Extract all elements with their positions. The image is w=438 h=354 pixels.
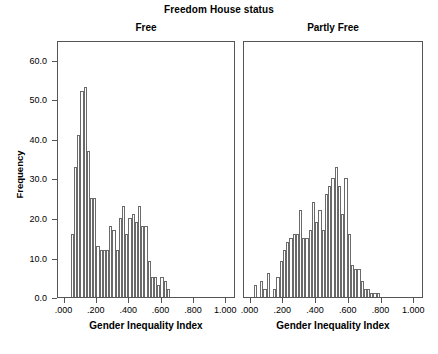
y-tick-label: 20.0 (29, 214, 47, 224)
plot-area-partly-free (243, 41, 423, 298)
y-tick-label: 10.0 (29, 254, 47, 264)
x-tick-mark (348, 298, 349, 303)
x-tick-label: .400 (119, 305, 137, 315)
histogram-bar (377, 293, 380, 297)
x-tick-label: .600 (152, 305, 170, 315)
x-axis-partly-free: Gender Inequality Index .000.200.400.600… (243, 298, 423, 332)
x-tick-mark (381, 298, 382, 303)
histogram-bar (267, 273, 270, 297)
x-tick-mark (128, 298, 129, 303)
histogram-figure: Freedom House status Free Partly Free Fr… (0, 0, 438, 354)
x-axis-title-partly-free: Gender Inequality Index (243, 320, 423, 331)
x-tick-label: .800 (372, 305, 390, 315)
x-tick-label: .200 (87, 305, 105, 315)
x-tick-mark (315, 298, 316, 303)
x-tick-label: .000 (241, 305, 259, 315)
x-tick-mark (413, 298, 414, 303)
panel-title-partly-free: Partly Free (243, 22, 423, 33)
y-tick-label: 60.0 (29, 56, 47, 66)
x-tick-label: .000 (55, 305, 73, 315)
y-axis-title: Frequency (14, 130, 25, 220)
page-title: Freedom House status (0, 4, 438, 15)
x-tick-label: 1.000 (214, 305, 237, 315)
x-tick-mark (96, 298, 97, 303)
x-tick-label: .400 (306, 305, 324, 315)
x-tick-mark (250, 298, 251, 303)
x-tick-mark (225, 298, 226, 303)
x-axis-free: Gender Inequality Index .000.200.400.600… (57, 298, 235, 332)
x-tick-mark (64, 298, 65, 303)
y-tick-label: 50.0 (29, 95, 47, 105)
x-tick-label: 1.000 (402, 305, 425, 315)
histogram-bars-partly-free (244, 42, 422, 297)
x-tick-label: .600 (339, 305, 357, 315)
x-tick-mark (282, 298, 283, 303)
plot-area-free (57, 41, 235, 298)
x-tick-mark (193, 298, 194, 303)
y-axis: Frequency 0.010.020.030.040.050.060.0 (0, 41, 57, 299)
x-tick-label: .200 (274, 305, 292, 315)
y-tick-label: 40.0 (29, 135, 47, 145)
histogram-bar (254, 285, 257, 297)
histogram-bar (167, 289, 170, 297)
panel-title-free: Free (57, 22, 235, 33)
x-tick-mark (161, 298, 162, 303)
x-axis-title-free: Gender Inequality Index (57, 320, 235, 331)
y-tick-label: 0.0 (34, 293, 47, 303)
x-tick-label: .800 (184, 305, 202, 315)
y-tick-label: 30.0 (29, 174, 47, 184)
histogram-bars-free (58, 42, 234, 297)
